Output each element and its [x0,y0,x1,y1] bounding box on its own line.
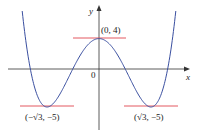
min-left-label: (−√3, −5) [25,112,60,122]
x-axis-label: x [185,72,190,82]
function-graph: y x 0 (0, 4) (−√3, −5) (√3, −5) [0,0,201,137]
peak-label: (0, 4) [101,25,121,35]
origin-label: 0 [91,70,96,80]
y-axis-arrow-icon [97,5,102,11]
x-axis-arrow-icon [184,67,190,72]
y-axis-label: y [88,6,93,16]
min-right-label: (√3, −5) [134,112,164,122]
